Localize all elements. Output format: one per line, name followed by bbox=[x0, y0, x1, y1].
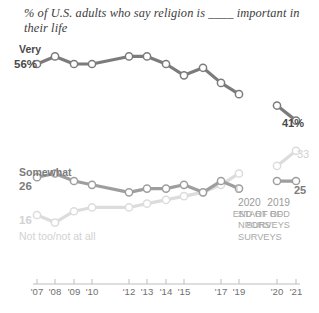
x-axis-tick-label: '19 bbox=[233, 286, 246, 297]
annotation-start-npors: 2020 START OF NPORS SURVEYS bbox=[238, 197, 316, 243]
annotation-start-npors-line1: START OF bbox=[238, 209, 282, 219]
chart-container: % of U.S. adults who say religion is ___… bbox=[0, 0, 319, 313]
series-value-very-start: 56% bbox=[14, 58, 37, 70]
series-value-somewhat-start: 26 bbox=[19, 180, 32, 192]
x-axis-tick-label: '17 bbox=[215, 286, 228, 297]
x-axis-tick-label: '15 bbox=[178, 286, 191, 297]
chart-plot-area bbox=[0, 0, 319, 313]
series-somewhat-line bbox=[33, 170, 299, 196]
annotation-start-npors-line2: NPORS bbox=[238, 220, 271, 230]
x-axis-tick-label: '12 bbox=[123, 286, 136, 297]
x-axis-tick-label: '21 bbox=[290, 286, 303, 297]
series-label-somewhat: Somewhat bbox=[19, 166, 72, 178]
x-axis-tick-label: '08 bbox=[49, 286, 62, 297]
x-axis-tick-label: '20 bbox=[271, 286, 284, 297]
series-very-line bbox=[33, 53, 299, 124]
annotation-start-npors-line3: SURVEYS bbox=[238, 232, 282, 242]
series-label-very: Very bbox=[19, 43, 41, 55]
x-axis-tick-label: '07 bbox=[31, 286, 44, 297]
x-axis-tick-label: '13 bbox=[141, 286, 154, 297]
x-axis-tick-label: '14 bbox=[160, 286, 173, 297]
x-axis-labels: '07'08'09'10'12'13'14'15'17'19'20'21 bbox=[0, 286, 319, 304]
annotation-start-npors-year: 2020 bbox=[238, 197, 316, 209]
series-label-not-too: Not too/not at all bbox=[19, 230, 95, 242]
series-value-not-too-start: 16 bbox=[19, 214, 32, 226]
x-axis bbox=[33, 279, 300, 284]
series-value-somewhat-end: 25 bbox=[294, 184, 306, 196]
series-value-not-too-end: 33 bbox=[297, 148, 309, 160]
x-axis-tick-label: '09 bbox=[68, 286, 81, 297]
x-axis-tick-label: '10 bbox=[86, 286, 99, 297]
series-value-very-end: 41% bbox=[282, 117, 304, 129]
